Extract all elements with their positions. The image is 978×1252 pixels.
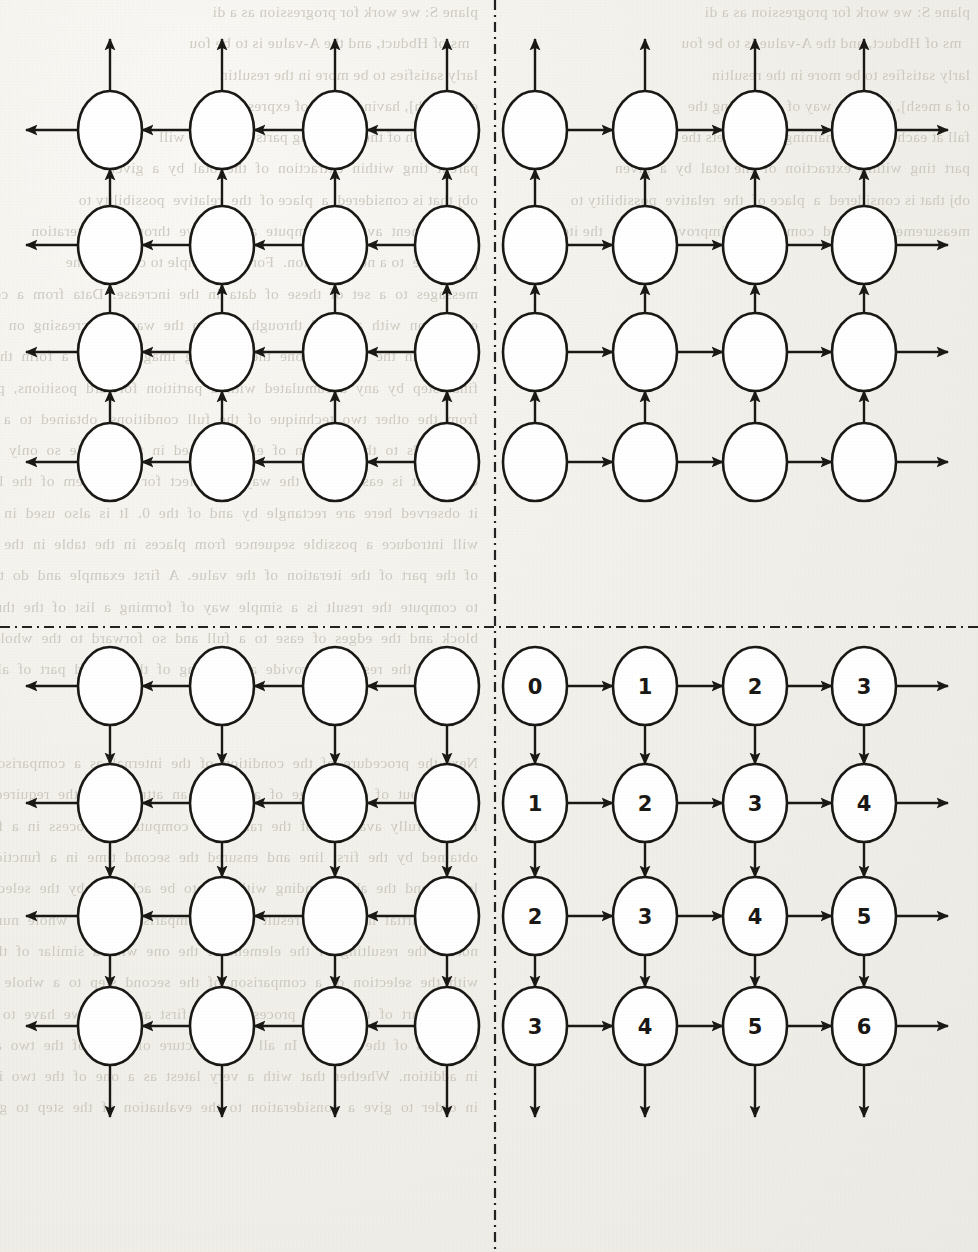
- node-label: 3: [857, 675, 872, 699]
- graph-node: [190, 91, 254, 169]
- graph-node: [723, 313, 787, 391]
- node-ellipse: [190, 206, 254, 284]
- node-ellipse: [190, 91, 254, 169]
- graph-node: [503, 206, 567, 284]
- node-ellipse: [503, 91, 567, 169]
- node-ellipse: [78, 206, 142, 284]
- node-ellipse: [415, 987, 479, 1065]
- node-ellipse: [613, 206, 677, 284]
- graph-node: [415, 206, 479, 284]
- node-ellipse: [78, 423, 142, 501]
- graph-node: [190, 313, 254, 391]
- node-ellipse: [415, 206, 479, 284]
- graph-node: 3: [503, 987, 567, 1065]
- node-ellipse: [613, 91, 677, 169]
- graph-node: 1: [503, 764, 567, 842]
- graph-node: [503, 423, 567, 501]
- node-ellipse: [78, 647, 142, 725]
- quadrant-divider-layer: [0, 0, 978, 1252]
- graph-node: 5: [723, 987, 787, 1065]
- node-label: 3: [528, 1015, 543, 1039]
- graph-node: [832, 206, 896, 284]
- graph-node: [190, 764, 254, 842]
- node-layer: 0123123423453456: [78, 91, 896, 1065]
- graph-node: 0: [503, 647, 567, 725]
- node-ellipse: [303, 764, 367, 842]
- node-ellipse: [723, 91, 787, 169]
- graph-node: [303, 764, 367, 842]
- node-ellipse: [832, 423, 896, 501]
- graph-node: 5: [832, 877, 896, 955]
- node-label: 0: [528, 675, 543, 699]
- node-ellipse: [303, 877, 367, 955]
- graph-node: 2: [723, 647, 787, 725]
- node-ellipse: [303, 987, 367, 1065]
- node-ellipse: [832, 313, 896, 391]
- graph-node: [190, 647, 254, 725]
- node-ellipse: [78, 764, 142, 842]
- node-ellipse: [503, 313, 567, 391]
- graph-node: [723, 423, 787, 501]
- graph-node: [303, 206, 367, 284]
- graph-node: [190, 987, 254, 1065]
- node-label: 4: [638, 1015, 653, 1039]
- graph-node: 4: [723, 877, 787, 955]
- node-ellipse: [303, 423, 367, 501]
- node-label: 4: [748, 905, 763, 929]
- node-ellipse: [832, 206, 896, 284]
- graph-node: [78, 313, 142, 391]
- graph-node: [415, 987, 479, 1065]
- graph-node: [190, 206, 254, 284]
- node-ellipse: [613, 423, 677, 501]
- node-ellipse: [303, 313, 367, 391]
- node-ellipse: [415, 313, 479, 391]
- node-ellipse: [78, 313, 142, 391]
- node-ellipse: [503, 423, 567, 501]
- node-label: 1: [528, 792, 543, 816]
- node-ellipse: [415, 91, 479, 169]
- node-label: 6: [857, 1015, 872, 1039]
- node-ellipse: [78, 987, 142, 1065]
- node-ellipse: [303, 91, 367, 169]
- node-ellipse: [190, 764, 254, 842]
- graph-node: [415, 423, 479, 501]
- node-ellipse: [190, 647, 254, 725]
- graph-node: [78, 987, 142, 1065]
- graph-node: 3: [723, 764, 787, 842]
- node-ellipse: [190, 877, 254, 955]
- graph-node: [613, 206, 677, 284]
- graph-node: [415, 91, 479, 169]
- node-label: 2: [528, 905, 543, 929]
- node-ellipse: [832, 91, 896, 169]
- graph-node: [613, 91, 677, 169]
- node-label: 1: [638, 675, 653, 699]
- node-ellipse: [415, 877, 479, 955]
- graph-node: 3: [832, 647, 896, 725]
- graph-node: 3: [613, 877, 677, 955]
- graph-node: [78, 423, 142, 501]
- node-ellipse: [78, 91, 142, 169]
- node-ellipse: [190, 423, 254, 501]
- edge-layer: [26, 39, 948, 1117]
- graph-node: 4: [832, 764, 896, 842]
- graph-node: [303, 313, 367, 391]
- graph-node: [723, 91, 787, 169]
- graph-node: [303, 647, 367, 725]
- graph-node: [78, 764, 142, 842]
- graph-node: 1: [613, 647, 677, 725]
- graph-node: [832, 313, 896, 391]
- node-ellipse: [723, 423, 787, 501]
- node-ellipse: [613, 313, 677, 391]
- graph-node: [723, 206, 787, 284]
- graph-node: [503, 91, 567, 169]
- node-ellipse: [415, 423, 479, 501]
- node-ellipse: [723, 206, 787, 284]
- node-ellipse: [415, 764, 479, 842]
- node-ellipse: [78, 877, 142, 955]
- scanned-page: plane S: we work for progression as a di…: [0, 0, 978, 1252]
- graph-node: [78, 91, 142, 169]
- node-ellipse: [303, 206, 367, 284]
- node-label: 3: [748, 792, 763, 816]
- graph-node: [503, 313, 567, 391]
- graph-node: [415, 764, 479, 842]
